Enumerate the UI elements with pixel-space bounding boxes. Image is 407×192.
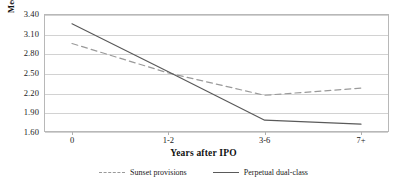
gridline <box>45 132 388 133</box>
chart-legend: Sunset provisionsPerpetual dual-class <box>0 168 407 177</box>
y-axis-tick-label: 2.20 <box>0 89 39 98</box>
legend-item: Perpetual dual-class <box>213 168 308 177</box>
y-axis-tick-label: 2.50 <box>0 69 39 78</box>
data-series-layer <box>44 14 389 132</box>
x-axis-tick-label: 3-6 <box>242 136 288 145</box>
y-axis-tick-label: 1.60 <box>0 128 39 137</box>
legend-item: Sunset provisions <box>99 168 187 177</box>
x-axis-tick-label: 7+ <box>338 136 384 145</box>
legend-label: Perpetual dual-class <box>244 168 308 177</box>
legend-swatch-icon <box>213 172 239 173</box>
series-line-perpetual-dual-class <box>72 24 361 124</box>
y-axis-tick-label: 1.90 <box>0 108 39 117</box>
x-axis-title: Years after IPO <box>0 148 407 158</box>
y-axis-tick-label: 3.10 <box>0 30 39 39</box>
y-axis-tick-label: 2.80 <box>0 49 39 58</box>
x-axis-tick-label: 0 <box>49 136 95 145</box>
series-line-sunset-provisions <box>72 44 361 96</box>
legend-swatch-icon <box>99 172 125 173</box>
x-axis-tick-label: 1-2 <box>145 136 191 145</box>
y-axis-tick-label: 3.40 <box>0 10 39 19</box>
line-chart: Median relative valuation (Q) 3.403.102.… <box>0 0 407 192</box>
legend-label: Sunset provisions <box>130 168 187 177</box>
